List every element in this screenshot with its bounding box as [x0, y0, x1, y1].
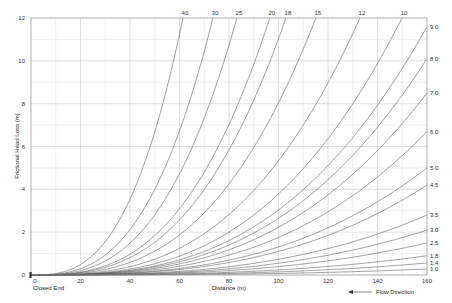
- top-label: 10: [401, 10, 408, 16]
- x-tick: 0: [33, 278, 37, 284]
- y-tick: 8: [22, 101, 26, 107]
- x-tick: 20: [77, 278, 84, 284]
- y-tick: 12: [18, 15, 25, 21]
- x-tick: 80: [226, 278, 233, 284]
- grid: [31, 18, 427, 275]
- right-label: 2.5: [430, 240, 439, 246]
- y-tick: 0: [22, 272, 26, 278]
- x-tick: 120: [323, 278, 334, 284]
- head-loss-chart: 020406080100120140160 024681012 40302520…: [0, 0, 452, 303]
- right-label: 4.5: [430, 182, 439, 188]
- x-tick-labels: 020406080100120140160: [33, 278, 432, 284]
- top-label: 12: [359, 10, 366, 16]
- right-curve-labels: 9.08.07.06.05.04.53.53.02.51.81.41.0: [430, 24, 439, 272]
- top-label: 15: [315, 10, 322, 16]
- y-tick: 2: [22, 229, 26, 235]
- closed-end-label: Closed End: [33, 285, 64, 291]
- right-label: 1.0: [430, 266, 439, 272]
- top-label: 40: [182, 10, 189, 16]
- flow-direction-label: Flow Direction: [376, 289, 414, 295]
- origin-marker: [30, 272, 32, 278]
- right-label: 6.0: [430, 129, 439, 135]
- y-tick: 6: [22, 144, 26, 150]
- x-tick: 40: [127, 278, 134, 284]
- right-label: 3.0: [430, 227, 439, 233]
- right-label: 9.0: [430, 24, 439, 30]
- x-tick: 100: [273, 278, 284, 284]
- top-label: 30: [212, 10, 219, 16]
- x-axis-label: Distance (m): [212, 285, 246, 291]
- flow-direction-arrow: [348, 290, 372, 294]
- x-tick: 160: [422, 278, 433, 284]
- y-tick: 4: [22, 186, 26, 192]
- y-tick: 10: [18, 58, 25, 64]
- top-label: 25: [236, 10, 243, 16]
- right-label: 1.8: [430, 253, 439, 259]
- x-tick: 60: [176, 278, 183, 284]
- right-label: 5.0: [430, 165, 439, 171]
- top-label: 18: [285, 10, 292, 16]
- right-label: 7.0: [430, 90, 439, 96]
- x-tick: 140: [372, 278, 383, 284]
- right-label: 8.0: [430, 56, 439, 62]
- y-axis-label: Frictional Head Loss (m): [14, 113, 20, 178]
- top-label: 20: [268, 10, 275, 16]
- right-label: 3.5: [430, 212, 439, 218]
- top-curve-labels: 4030252018151210: [182, 10, 408, 16]
- arrow-left-icon: [348, 290, 353, 294]
